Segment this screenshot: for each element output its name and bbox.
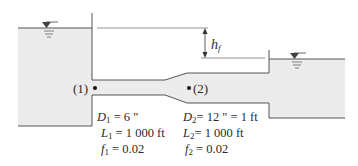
point-2-marker xyxy=(187,86,191,90)
pipe-2-friction-factor: f2 = 0.02 xyxy=(183,143,258,159)
pipe-2-length: L2= 1 000 ft xyxy=(183,127,258,143)
pipe-2-parameters: D2= 12 " = 1 ft L2= 1 000 ft f2 = 0.02 xyxy=(183,111,258,159)
head-loss-label: hf xyxy=(211,38,221,55)
pipe-1-friction-factor: f1 = 0.02 xyxy=(97,143,165,159)
point-2-label: (2) xyxy=(193,82,208,95)
pipe-1-parameters: D1 = 6 " L1 = 1 000 ft f1 = 0.02 xyxy=(97,111,165,159)
pipe-2-diameter: D2= 12 " = 1 ft xyxy=(183,111,258,127)
point-1-label: (1) xyxy=(73,82,88,95)
point-1-marker xyxy=(93,86,97,90)
head-loss-dimension-arrow xyxy=(203,28,208,58)
left-reservoir-water xyxy=(18,28,345,126)
pipe-1-diameter: D1 = 6 " xyxy=(97,111,165,127)
pipe-system-diagram xyxy=(0,0,358,166)
pipe-1-length: L1 = 1 000 ft xyxy=(97,127,165,143)
